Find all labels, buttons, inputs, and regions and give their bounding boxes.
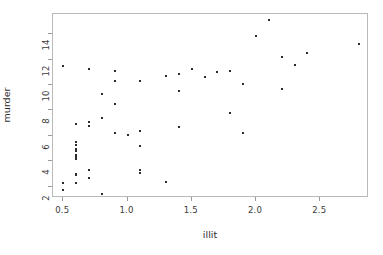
data-point [139, 169, 141, 171]
data-point [88, 125, 90, 127]
data-point [62, 189, 64, 191]
data-point [62, 65, 64, 67]
data-point [242, 83, 244, 85]
data-point [88, 177, 90, 179]
data-point [75, 144, 77, 146]
data-point [114, 70, 116, 72]
y-tick-label: 14 [41, 33, 51, 57]
data-point [281, 88, 283, 90]
data-point [101, 193, 103, 195]
data-point [242, 132, 244, 134]
y-tick-label: 10 [41, 84, 51, 108]
chart-screenshot: 0.51.01.52.02.5 2468101214 illit murder [0, 0, 383, 255]
x-tick-label: 2.5 [312, 205, 326, 215]
x-tick-label: 0.5 [55, 205, 69, 215]
x-tick-mark [191, 197, 192, 201]
data-point [255, 35, 257, 37]
data-point [165, 75, 167, 77]
x-tick-label: 1.0 [119, 205, 133, 215]
data-point [88, 121, 90, 123]
y-tick-label: 2 [41, 186, 51, 210]
data-point [204, 76, 206, 78]
data-point [88, 68, 90, 70]
data-point [75, 150, 77, 152]
x-tick-mark [255, 197, 256, 201]
data-point [229, 70, 231, 72]
data-point [281, 56, 283, 58]
y-tick-label: 4 [41, 160, 51, 184]
data-point [165, 181, 167, 183]
data-point [75, 141, 77, 143]
data-point [101, 117, 103, 119]
data-point [62, 182, 64, 184]
data-point [294, 64, 296, 66]
data-point [88, 169, 90, 171]
data-point [178, 90, 180, 92]
data-point [229, 112, 231, 114]
data-point [101, 93, 103, 95]
data-point [191, 68, 193, 70]
x-tick-mark [62, 197, 63, 201]
data-point [268, 19, 270, 21]
x-tick-mark [319, 197, 320, 201]
scatter-points-layer [53, 14, 367, 196]
y-tick-label: 12 [41, 59, 51, 83]
data-point [139, 145, 141, 147]
y-axis-title: murder [1, 88, 12, 123]
data-point [139, 172, 141, 174]
data-point [114, 132, 116, 134]
x-axis-title: illit [203, 229, 217, 240]
data-point [139, 80, 141, 82]
data-point [114, 80, 116, 82]
data-point [127, 134, 129, 136]
data-point [114, 103, 116, 105]
plot-area [52, 13, 368, 197]
y-tick-label: 8 [41, 109, 51, 133]
data-point [75, 123, 77, 125]
data-point [178, 73, 180, 75]
data-point [139, 130, 141, 132]
data-point [75, 156, 77, 158]
x-tick-mark [127, 197, 128, 201]
data-point [358, 43, 360, 45]
data-point [75, 182, 77, 184]
data-point [306, 52, 308, 54]
data-point [178, 126, 180, 128]
x-tick-label: 1.5 [184, 205, 198, 215]
data-point [75, 173, 77, 175]
data-point [216, 71, 218, 73]
y-tick-label: 6 [41, 135, 51, 159]
x-tick-label: 2.0 [248, 205, 262, 215]
